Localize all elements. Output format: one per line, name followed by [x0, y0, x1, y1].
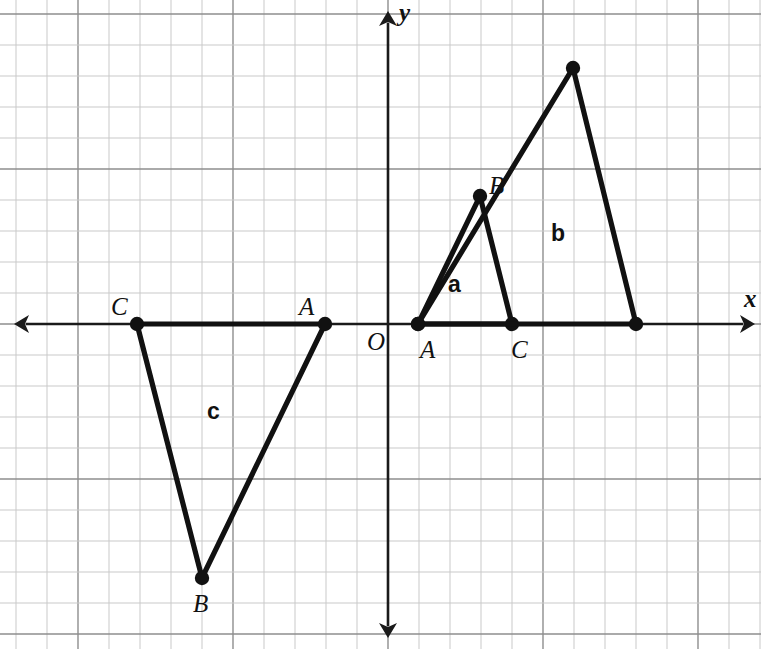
x-axis-label: x [743, 285, 757, 312]
vertex-label-a-a: A [418, 336, 436, 363]
coordinate-plane-figure: ABCabCABcxyO [0, 0, 761, 649]
vertex-label-c-c: C [111, 293, 128, 320]
shape-label-a: a [448, 271, 461, 297]
labels-layer: ABCabCABcxyO [111, 0, 757, 617]
vertex-dot-c [195, 571, 209, 585]
vertex-label-c-b: B [193, 590, 208, 617]
geometry-canvas: ABCabCABcxyO [0, 0, 761, 649]
y-axis-label: y [396, 0, 411, 26]
axes-layer [14, 11, 755, 638]
vertex-label-c-a: A [297, 293, 315, 320]
vertex-label-a-c: C [511, 336, 528, 363]
vertex-dot-c [318, 317, 332, 331]
vertex-label-a-b: B [489, 172, 504, 199]
triangle-c [137, 324, 325, 578]
shape-label-b: b [551, 220, 565, 246]
vertex-dot-c [130, 317, 144, 331]
vertex-dot-a [473, 189, 487, 203]
origin-label: O [367, 328, 385, 355]
shape-label-c: c [207, 398, 220, 424]
vertex-dot-b [629, 317, 643, 331]
vertex-dot-b [566, 61, 580, 75]
vertex-dot-b [411, 317, 425, 331]
